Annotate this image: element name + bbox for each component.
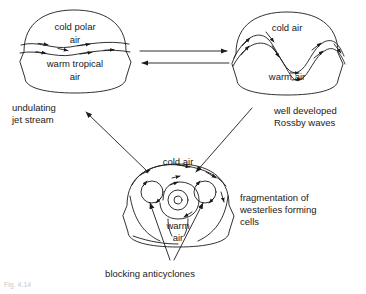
figure-number-faint: Fig. 4.14	[4, 281, 31, 288]
connector-cells-to-undulating	[86, 112, 148, 172]
caption-fragmentation-line2: westerlies forming	[240, 204, 317, 216]
caption-undulating-line1: undulating	[12, 102, 56, 114]
label-warm-tropical: warm tropical	[28, 58, 122, 70]
caption-fragmentation-line3: cells	[240, 216, 259, 228]
caption-undulating-line2: jet stream	[12, 114, 54, 126]
label-warm-air-rossby: warm air	[250, 71, 324, 83]
label-warm-cells: warm	[152, 220, 204, 232]
label-cold-air-rossby: cold air	[252, 22, 322, 34]
label-air-top: air	[40, 34, 110, 46]
caption-rossby-line1: well developed	[274, 105, 337, 117]
label-cold-polar: cold polar	[40, 21, 110, 33]
caption-fragmentation-line1: fragmentation of	[240, 192, 309, 204]
figure-canvas: cold polar air warm tropical air cold ai…	[0, 0, 366, 294]
central-cell-spiral	[160, 176, 199, 219]
label-air-bottom: air	[40, 71, 110, 83]
caption-blocking-anticyclones: blocking anticyclones	[80, 268, 220, 280]
blocking-anticyclone-left	[141, 181, 163, 203]
label-cold-air-cells: cold air	[144, 156, 212, 168]
label-air-cells: air	[158, 232, 198, 244]
caption-rossby-line2: Rossby waves	[274, 117, 335, 129]
